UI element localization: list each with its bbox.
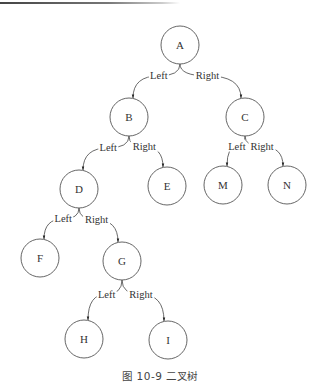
node-label: D bbox=[75, 183, 83, 195]
tree-node-C: C bbox=[226, 98, 264, 136]
edge-B-E: Right bbox=[129, 136, 163, 167]
edge-C-N: Right bbox=[245, 136, 283, 166]
binary-tree-diagram: LeftRightLeftRightLeftRightLeftRightLeft… bbox=[0, 0, 320, 391]
edge-label: Left bbox=[150, 70, 168, 81]
edge-label: Left bbox=[55, 213, 73, 224]
tree-node-E: E bbox=[148, 167, 186, 205]
edge-G-H: Left bbox=[88, 280, 122, 320]
edge-A-C: Right bbox=[180, 64, 241, 98]
tree-node-F: F bbox=[21, 239, 59, 277]
node-label: M bbox=[218, 179, 228, 191]
tree-node-B: B bbox=[110, 98, 148, 136]
tree-node-H: H bbox=[65, 320, 103, 358]
edge-D-F: Left bbox=[44, 208, 79, 239]
edge-C-M: Left bbox=[227, 136, 247, 166]
node-label: H bbox=[80, 333, 88, 345]
tree-node-N: N bbox=[268, 166, 306, 204]
tree-node-D: D bbox=[60, 170, 98, 208]
node-label: F bbox=[37, 252, 43, 264]
node-label: B bbox=[125, 111, 132, 123]
tree-node-I: I bbox=[149, 321, 187, 359]
node-label: N bbox=[283, 179, 291, 191]
tree-node-G: G bbox=[103, 242, 141, 280]
node-label: E bbox=[164, 180, 171, 192]
node-label: I bbox=[166, 334, 170, 346]
edge-D-G: Right bbox=[79, 208, 118, 242]
node-label: C bbox=[241, 111, 248, 123]
edge-A-B: Left bbox=[133, 64, 180, 98]
edge-label: Right bbox=[196, 70, 219, 81]
edge-label: Left bbox=[100, 142, 118, 153]
edge-G-I: Right bbox=[122, 280, 164, 321]
edge-label: Right bbox=[129, 289, 152, 300]
edge-label: Left bbox=[98, 289, 116, 300]
edge-label: Right bbox=[85, 214, 108, 225]
edge-label: Right bbox=[133, 141, 156, 152]
node-label: A bbox=[176, 39, 184, 51]
tree-node-A: A bbox=[161, 26, 199, 64]
edge-label: Left bbox=[228, 141, 246, 152]
tree-node-M: M bbox=[204, 166, 242, 204]
edge-B-D: Left bbox=[83, 136, 129, 170]
figure-caption: 图 10-9 二叉树 bbox=[0, 368, 320, 383]
edge-label: Right bbox=[250, 141, 273, 152]
node-label: G bbox=[118, 255, 126, 267]
